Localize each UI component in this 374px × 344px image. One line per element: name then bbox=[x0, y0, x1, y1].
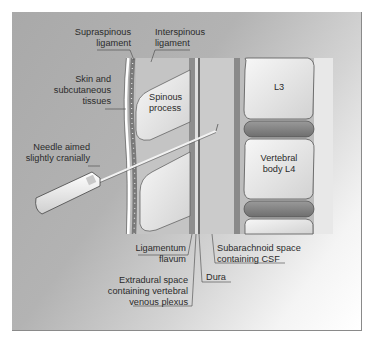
label-line: venous plexus bbox=[95, 297, 188, 308]
label-line: Spinous bbox=[149, 92, 182, 103]
disc-l3-l4 bbox=[244, 121, 314, 137]
label-line: subcutaneous bbox=[40, 85, 111, 96]
label-line: body L4 bbox=[249, 164, 309, 175]
label-line: slightly cranially bbox=[20, 153, 90, 164]
dura bbox=[198, 58, 200, 234]
label-line: Interspinous bbox=[155, 27, 205, 38]
label-dura: Dura bbox=[206, 272, 226, 283]
posterior-longitudinal-ligament bbox=[234, 58, 240, 234]
label-line: flavum bbox=[120, 254, 186, 265]
label-line: Vertebral bbox=[249, 153, 309, 164]
subarachnoid-space bbox=[200, 58, 234, 234]
label-extradural-space: Extradural space containing vertebral ve… bbox=[95, 275, 188, 308]
extradural-space bbox=[195, 58, 198, 234]
label-line: Skin and bbox=[40, 74, 111, 85]
label-line: Supraspinous bbox=[68, 27, 131, 38]
label-subarachnoid-space: Subarachnoid space containing CSF bbox=[217, 243, 301, 265]
label-skin-tissues: Skin and subcutaneous tissues bbox=[40, 74, 111, 107]
label-line: tissues bbox=[40, 96, 111, 107]
label-spinous-process: Spinous process bbox=[149, 92, 182, 114]
label-line: Subarachnoid space bbox=[217, 243, 301, 254]
disc-l4-l5 bbox=[244, 201, 314, 217]
label-interspinous-ligament: Interspinous ligament bbox=[155, 27, 205, 49]
label-line: process bbox=[149, 103, 182, 114]
label-ligamentum-flavum: Ligamentum flavum bbox=[120, 243, 186, 265]
label-line: containing CSF bbox=[217, 254, 301, 265]
label-vertebral-body-l4: Vertebral body L4 bbox=[249, 153, 309, 175]
label-line: ligament bbox=[68, 38, 131, 49]
vertebra-l5 bbox=[245, 219, 313, 234]
label-line: Extradural space bbox=[95, 275, 188, 286]
label-line: ligament bbox=[155, 38, 205, 49]
label-line: containing vertebral bbox=[95, 286, 188, 297]
label-l3: L3 bbox=[262, 82, 296, 93]
label-supraspinous-ligament: Supraspinous ligament bbox=[68, 27, 131, 49]
label-line: Ligamentum bbox=[120, 243, 186, 254]
label-line: Needle aimed bbox=[20, 142, 90, 153]
label-needle: Needle aimed slightly cranially bbox=[20, 142, 90, 164]
